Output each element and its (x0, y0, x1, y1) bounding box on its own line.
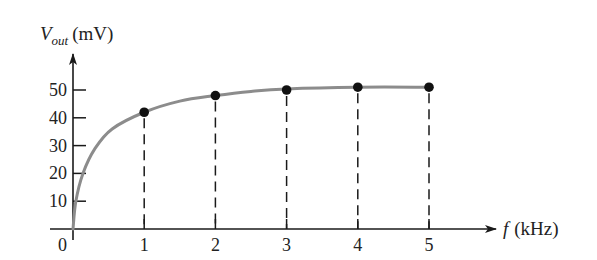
y-tick-label: 50 (49, 80, 67, 100)
data-point (211, 91, 221, 101)
x-tick-label: 3 (282, 235, 291, 255)
y-tick-label: 20 (49, 163, 67, 183)
x-tick-label: 2 (211, 235, 220, 255)
y-axis-ticks: 1020304050 (49, 80, 86, 211)
x-tick-label: 4 (353, 235, 362, 255)
data-point (282, 85, 292, 95)
data-point (353, 82, 363, 92)
dashed-drop-lines (144, 93, 429, 229)
y-tick-label: 10 (49, 191, 67, 211)
y-tick-label: 30 (49, 136, 67, 156)
origin-label: 0 (58, 235, 67, 255)
response-curve (73, 87, 429, 229)
data-point (139, 107, 149, 117)
x-axis-ticks: 12345 (140, 219, 434, 255)
x-axis-label: f(kHz) (503, 218, 559, 240)
y-tick-label: 40 (49, 108, 67, 128)
data-point (424, 82, 434, 92)
y-axis-label: Vout(mV) (40, 23, 113, 48)
x-tick-label: 5 (425, 235, 434, 255)
x-tick-label: 1 (140, 235, 149, 255)
frequency-response-chart: 1020304050 12345 Vout(mV) f(kHz) 0 (0, 0, 597, 260)
